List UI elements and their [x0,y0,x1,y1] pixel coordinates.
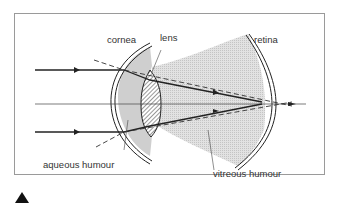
vitreous-humour-region [152,34,265,166]
triangle-up-icon [15,192,29,203]
label-cornea: cornea [107,34,137,45]
focal-point-icon [288,102,296,106]
eye-diagram: cornea lens retina aqueous humour vitreo… [0,0,339,205]
label-aqueous-humour: aqueous humour [43,159,114,170]
label-lens: lens [160,32,178,43]
label-retina: retina [254,34,278,45]
arrow-top-incoming-icon [74,67,80,73]
arrow-bottom-incoming-icon [74,129,80,135]
label-vitreous-humour: vitreous humour [213,168,281,179]
